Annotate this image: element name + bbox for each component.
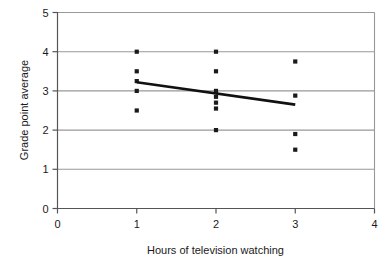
data-point bbox=[214, 50, 218, 54]
data-point bbox=[293, 132, 297, 136]
data-point bbox=[293, 94, 297, 98]
scatter-plot-canvas: 01234 012345 bbox=[0, 0, 389, 274]
x-tick-label-1: 1 bbox=[134, 218, 140, 230]
y-tick-label-1: 1 bbox=[42, 163, 48, 175]
data-point bbox=[135, 89, 139, 93]
x-ticks-group: 01234 bbox=[54, 209, 377, 230]
data-point bbox=[135, 108, 139, 112]
y-ticks-group: 012345 bbox=[42, 7, 57, 215]
data-point bbox=[293, 148, 297, 152]
data-point bbox=[214, 95, 218, 99]
y-tick-label-2: 2 bbox=[42, 124, 48, 136]
chart-figure: Grade point average Hours of television … bbox=[0, 0, 389, 274]
x-tick-label-2: 2 bbox=[213, 218, 219, 230]
data-point bbox=[293, 59, 297, 63]
y-tick-label-3: 3 bbox=[42, 85, 48, 97]
x-tick-label-3: 3 bbox=[292, 218, 298, 230]
data-point bbox=[135, 69, 139, 73]
data-point bbox=[214, 128, 218, 132]
data-point bbox=[214, 106, 218, 110]
data-point bbox=[135, 50, 139, 54]
data-point bbox=[214, 101, 218, 105]
y-tick-label-4: 4 bbox=[42, 46, 48, 58]
x-tick-label-0: 0 bbox=[54, 218, 60, 230]
data-point bbox=[214, 69, 218, 73]
y-tick-label-5: 5 bbox=[42, 7, 48, 19]
x-tick-label-4: 4 bbox=[371, 218, 377, 230]
y-tick-label-0: 0 bbox=[42, 203, 48, 215]
